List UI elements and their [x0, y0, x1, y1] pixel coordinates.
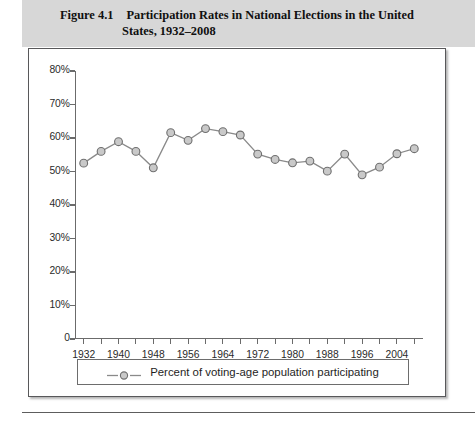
- x-axis-tick: [362, 339, 363, 344]
- data-point-marker: [410, 145, 418, 153]
- x-axis-tick: [275, 339, 276, 344]
- figure-header-band: Figure 4.1Participation Rates in Nationa…: [22, 0, 475, 47]
- chart-frame: 010%20%30%40%50%60%70%80%193219401948195…: [28, 48, 446, 397]
- y-axis-tick: [70, 70, 75, 71]
- data-point-marker: [97, 148, 105, 156]
- figure-title-line1: Participation Rates in National Election…: [126, 8, 413, 22]
- y-axis-label: 0: [26, 332, 70, 343]
- figure-caption: Figure 4.1Participation Rates in Nationa…: [60, 7, 475, 39]
- data-point-marker: [306, 157, 314, 165]
- y-axis-label: 40%: [26, 198, 70, 209]
- plot-area: 010%20%30%40%50%60%70%80%193219401948195…: [75, 71, 423, 339]
- y-axis-tick: [70, 338, 75, 339]
- y-axis-label: 10%: [26, 299, 70, 310]
- x-axis-tick: [222, 339, 223, 344]
- y-axis-label: 80%: [26, 64, 70, 75]
- figure-number: Figure 4.1: [60, 7, 113, 23]
- data-point-marker: [219, 128, 227, 136]
- footer-divider: [22, 412, 475, 413]
- data-point-marker: [323, 167, 331, 175]
- y-axis-tick: [70, 137, 75, 138]
- legend-marker-icon: [107, 367, 141, 378]
- series-line-chart: [75, 71, 423, 339]
- x-axis-tick: [170, 339, 171, 344]
- data-point-marker: [376, 163, 384, 171]
- y-axis-tick: [70, 238, 75, 239]
- data-point-marker: [80, 159, 88, 167]
- legend-label: Percent of voting-age population partici…: [150, 366, 379, 378]
- x-axis-tick: [135, 339, 136, 344]
- x-axis-tick: [414, 339, 415, 344]
- data-point-marker: [341, 150, 349, 158]
- data-point-marker: [115, 138, 123, 146]
- x-axis-tick: [379, 339, 380, 344]
- data-point-marker: [167, 129, 175, 137]
- data-point-marker: [184, 136, 192, 144]
- data-point-marker: [271, 156, 279, 164]
- figure-title-line2: States, 1932–2008: [122, 23, 475, 39]
- y-axis-tick: [70, 204, 75, 205]
- y-axis-tick: [70, 171, 75, 172]
- x-axis-tick: [83, 339, 84, 344]
- x-axis-tick: [344, 339, 345, 344]
- x-axis-tick: [292, 339, 293, 344]
- x-axis-tick: [205, 339, 206, 344]
- x-axis-tick: [309, 339, 310, 344]
- data-point-marker: [132, 148, 140, 156]
- x-axis-tick: [188, 339, 189, 344]
- data-point-marker: [202, 125, 210, 133]
- x-axis-tick: [396, 339, 397, 344]
- chart-legend: Percent of voting-age population partici…: [77, 359, 409, 385]
- data-point-marker: [358, 171, 366, 179]
- y-axis-label: 20%: [26, 265, 70, 276]
- data-point-marker: [254, 150, 262, 158]
- y-axis-label: 70%: [26, 98, 70, 109]
- y-axis-tick: [70, 104, 75, 105]
- y-axis-label: 30%: [26, 232, 70, 243]
- x-axis-tick: [118, 339, 119, 344]
- x-axis-tick: [240, 339, 241, 344]
- x-axis-tick: [101, 339, 102, 344]
- data-point-marker: [393, 150, 401, 158]
- figure-root: Figure 4.1Participation Rates in Nationa…: [0, 0, 475, 423]
- x-axis-tick: [153, 339, 154, 344]
- data-point-marker: [149, 164, 157, 172]
- data-point-marker: [289, 159, 297, 167]
- x-axis-tick: [327, 339, 328, 344]
- y-axis-label: 50%: [26, 165, 70, 176]
- x-axis-tick: [257, 339, 258, 344]
- y-axis-label: 60%: [26, 131, 70, 142]
- y-axis-tick: [70, 305, 75, 306]
- y-axis-tick: [70, 271, 75, 272]
- data-point-marker: [236, 131, 244, 139]
